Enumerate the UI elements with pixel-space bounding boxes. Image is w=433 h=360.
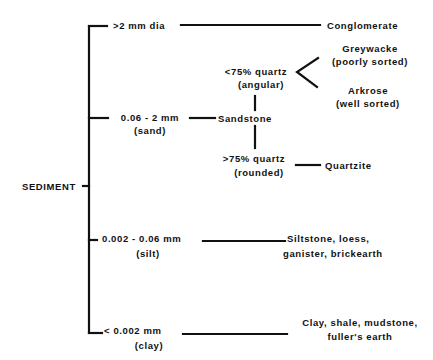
clay-size-label: < 0.002 mm [104, 324, 162, 337]
sandstone-label: Sandstone [218, 112, 272, 125]
sediment-label: SEDIMENT [22, 180, 76, 193]
siltstone-result-line1: Siltstone, loess, [287, 232, 370, 245]
clay-class-label: (clay) [119, 339, 179, 352]
conglomerate-label: Conglomerate [327, 19, 398, 32]
arkrose-label: Arkrose [318, 84, 418, 97]
siltstone-result-line2: ganister, brickearth [283, 247, 383, 260]
sand-size-label: 0.06 - 2 mm [110, 111, 190, 124]
sediment-classification-diagram: SEDIMENT >2 mm dia Conglomerate 0.06 - 2… [0, 0, 433, 360]
poorly-sorted-label: (poorly sorted) [320, 55, 420, 68]
clay-result-line1: Clay, shale, mudstone, [285, 316, 433, 329]
greywacke-label: Greywacke [320, 42, 420, 55]
clay-result-line2: fuller's earth [285, 330, 433, 343]
sand-class-label: (sand) [110, 124, 190, 137]
gravel-size-label: >2 mm dia [113, 19, 165, 32]
rounded-label: (rounded) [224, 166, 294, 179]
well-sorted-label: (well sorted) [318, 97, 418, 110]
quartzite-label: Quartzite [325, 159, 372, 172]
high-quartz-label: >75% quartz [214, 152, 294, 165]
silt-size-label: 0.002 - 0.06 mm [102, 232, 181, 245]
low-quartz-label: <75% quartz [216, 65, 296, 78]
angular-label: (angular) [226, 78, 296, 91]
silt-class-label: (silt) [118, 247, 178, 260]
sorting-chevron [297, 58, 318, 87]
